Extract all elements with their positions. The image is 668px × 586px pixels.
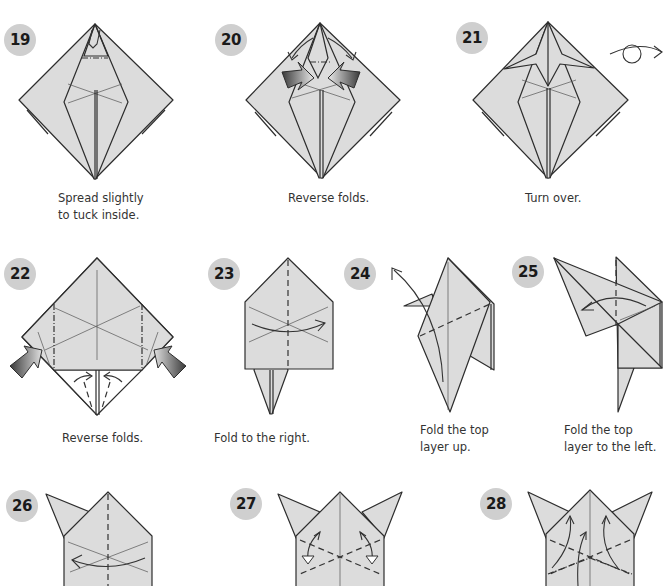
step-19: 19 Spread slightly to tuck inside.	[0, 0, 210, 230]
step-27: 27	[220, 470, 440, 586]
push-arrow-right-icon	[154, 346, 186, 378]
step-26-diagram	[0, 470, 220, 586]
step-caption: Reverse folds.	[288, 190, 369, 207]
step-23: 23 Fold to the right.	[200, 240, 340, 470]
step-caption: Fold the top layer to the left.	[564, 422, 657, 456]
step-20: 20 Reverse folds.	[210, 0, 440, 230]
step-25: 25 Fold the top layer to the left.	[500, 240, 668, 470]
step-caption: Spread slightly to tuck inside.	[58, 190, 144, 224]
step-caption: Fold the top layer up.	[420, 422, 489, 456]
step-28-diagram	[440, 470, 668, 586]
step-caption: Reverse folds.	[62, 430, 143, 447]
step-caption: Turn over.	[525, 190, 581, 207]
push-arrow-left-icon	[10, 346, 42, 378]
step-26: 26	[0, 470, 220, 586]
step-21: 21 Turn over.	[440, 0, 668, 230]
step-24: 24 Fold the top layer up.	[340, 240, 510, 470]
step-caption: Fold to the right.	[214, 430, 310, 447]
step-28: 28	[440, 470, 668, 586]
step-22: 22 Reverse folds.	[0, 240, 200, 470]
step-27-diagram	[220, 470, 440, 586]
